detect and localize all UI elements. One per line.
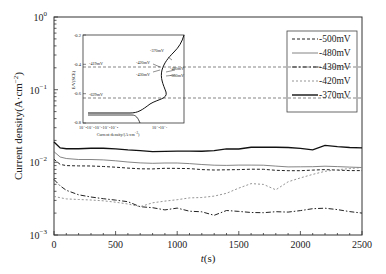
inset-x-ticks-right: 10⁻²10⁻¹	[152, 125, 168, 130]
inset-hline-label: -419mV	[89, 61, 103, 66]
inset-x-label: Current density/(A·cm−2)	[97, 131, 140, 137]
y-tick-label: 100	[34, 10, 48, 23]
x-tick-labels: 0 500 1000 1500 2000 2500	[52, 239, 373, 250]
x-tick-label: 1500	[229, 239, 249, 250]
inset-y-tick: -0.4	[74, 62, 82, 67]
y-tick-label: 10−1	[30, 83, 48, 96]
x-tick-label: 1000	[167, 239, 187, 250]
inset-annotation: -500mV	[170, 73, 184, 78]
legend-item-480mV: -480mV	[319, 48, 351, 58]
series-layer	[54, 142, 362, 215]
y-tick-label: 10−2	[30, 155, 48, 168]
inset-x-ticks-left: 10⁻⁸10⁻⁷10⁻⁶10⁻⁵10⁻⁴	[79, 125, 119, 130]
y-tick-labels: 100 10−1 10−2 10−3	[30, 10, 48, 241]
legend-item-370mV: -370mV	[319, 90, 351, 100]
y-axis-label: Current density(A·cm−2)	[12, 72, 25, 180]
legend: -500mV -480mV -430mV -420mV -370mV	[287, 31, 357, 112]
inset-annotation: -370mV	[150, 48, 164, 53]
x-axis-label: t(s)	[201, 252, 216, 265]
inset-hline-label: -629mV	[89, 92, 103, 97]
legend-item-420mV: -420mV	[319, 76, 351, 86]
x-tick-label: 0	[52, 239, 57, 250]
x-tick-label: 2000	[290, 239, 310, 250]
inset-y-tick: -0.6	[74, 91, 82, 96]
series-line-minus-420mV	[54, 168, 362, 207]
legend-item-500mV: -500mV	[319, 34, 351, 44]
chart-container: 0 500 1000 1500 2000 2500 t(s) 100 10−1 …	[0, 0, 386, 274]
x-tick-label: 2500	[352, 239, 372, 250]
y-axis	[54, 17, 58, 235]
y-tick-label: 10−3	[30, 228, 48, 241]
series-line-minus-370mV	[54, 142, 362, 152]
x-axis	[54, 231, 362, 235]
inset-annotation: -480mV	[170, 66, 184, 71]
inset-y-label: E/V(SCE)	[71, 70, 76, 89]
inset-y-tick: -0.2	[74, 33, 81, 38]
series-line-minus-430mV	[54, 180, 362, 216]
inset-annotation: -430mV	[136, 72, 150, 77]
inset-annotation: -420mV	[136, 60, 150, 65]
x-tick-label: 500	[108, 239, 123, 250]
series-line-minus-480mV	[54, 152, 362, 168]
